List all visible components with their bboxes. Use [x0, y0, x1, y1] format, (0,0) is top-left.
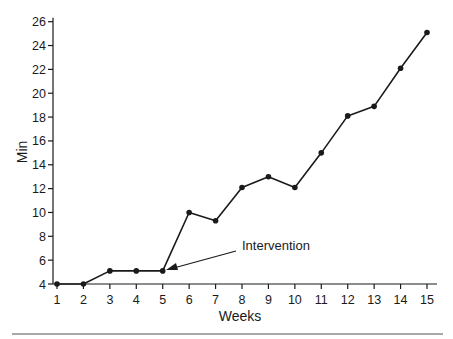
data-point: [266, 174, 272, 180]
y-tick-label: 6: [39, 254, 46, 268]
data-point: [371, 104, 377, 110]
y-tick-label: 4: [39, 278, 46, 292]
x-tick-label: 15: [420, 293, 434, 307]
x-tick-label: 2: [80, 293, 87, 307]
data-point: [239, 185, 245, 191]
x-tick-label: 8: [239, 293, 246, 307]
x-tick-label: 11: [315, 293, 328, 307]
data-point: [186, 210, 192, 216]
data-point: [133, 268, 139, 274]
data-point: [54, 281, 60, 287]
data-point: [318, 150, 324, 156]
x-tick-label: 10: [288, 293, 302, 307]
y-tick-label: 12: [32, 182, 46, 196]
intervention-label: Intervention: [242, 238, 310, 253]
x-tick-label: 6: [186, 293, 193, 307]
intervention-arrow: [170, 251, 236, 269]
data-point: [160, 268, 166, 274]
x-tick-label: 3: [106, 293, 113, 307]
line-chart: 468101214161820222426 123456789101112131…: [0, 0, 453, 339]
y-tick-label: 10: [32, 206, 46, 220]
y-tick-label: 24: [32, 39, 46, 53]
x-tick-label: 5: [159, 293, 166, 307]
x-tick-label: 12: [341, 293, 355, 307]
y-tick-label: 8: [39, 230, 46, 244]
y-axis: 468101214161820222426: [32, 15, 53, 291]
data-point: [345, 113, 351, 119]
y-tick-label: 22: [32, 63, 46, 77]
y-tick-label: 14: [32, 158, 46, 172]
x-tick-label: 14: [394, 293, 408, 307]
x-axis-title: Weeks: [219, 308, 262, 324]
x-tick-label: 9: [265, 293, 272, 307]
y-tick-label: 26: [32, 15, 46, 29]
y-axis-title: Min: [14, 141, 30, 164]
x-axis: 123456789101112131415: [53, 284, 437, 307]
y-tick-label: 16: [32, 134, 46, 148]
data-point: [398, 65, 404, 71]
data-point: [292, 185, 298, 191]
x-tick-label: 4: [133, 293, 140, 307]
data-point: [107, 268, 113, 274]
intervention-annotation: Intervention: [166, 238, 310, 270]
chart-canvas: 468101214161820222426 123456789101112131…: [0, 0, 453, 339]
data-point: [213, 218, 219, 224]
data-point: [81, 281, 87, 287]
x-tick-label: 1: [54, 293, 61, 307]
y-tick-label: 20: [32, 87, 46, 101]
x-tick-label: 7: [212, 293, 219, 307]
data-point: [424, 30, 430, 36]
x-tick-label: 13: [367, 293, 381, 307]
arrow-head-icon: [166, 263, 178, 270]
y-tick-label: 18: [32, 111, 46, 125]
